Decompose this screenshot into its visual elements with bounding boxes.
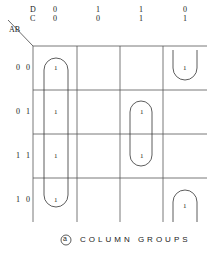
col-2-c: 0 — [96, 15, 100, 23]
row-label-00: 0 0 — [16, 63, 32, 72]
col-4-c: 1 — [183, 15, 187, 23]
col-1-d: 0 — [53, 6, 57, 14]
caption-marker: a — [63, 235, 67, 242]
col-2-d: 1 — [96, 6, 100, 14]
row-var-ab: AB — [9, 26, 20, 34]
cell-r2-c2: 1 — [140, 152, 144, 160]
row-label-01: 0 1 — [16, 107, 32, 116]
kmap-grid — [0, 0, 219, 256]
col-4-d: 0 — [183, 6, 187, 14]
cell-r0-c3: 1 — [183, 64, 187, 72]
caption-text: COLUMN GROUPS — [80, 235, 191, 244]
col-var-c: C — [30, 15, 35, 23]
cell-r3-c0: 1 — [54, 196, 58, 204]
cell-r0-c0: 1 — [54, 64, 58, 72]
row-label-10: 1 0 — [16, 195, 32, 204]
col-1-c: 0 — [53, 15, 57, 23]
col-var-d: D — [30, 6, 36, 14]
col-3-d: 1 — [139, 6, 143, 14]
group-loop-column-1 — [44, 58, 68, 207]
row-label-11: 1 1 — [16, 151, 32, 160]
cell-r2-c0: 1 — [54, 152, 58, 160]
col-3-c: 1 — [139, 15, 143, 23]
cell-r1-c2: 1 — [140, 108, 144, 116]
cell-r3-c3: 1 — [183, 202, 187, 210]
cell-r1-c0: 1 — [54, 108, 58, 116]
